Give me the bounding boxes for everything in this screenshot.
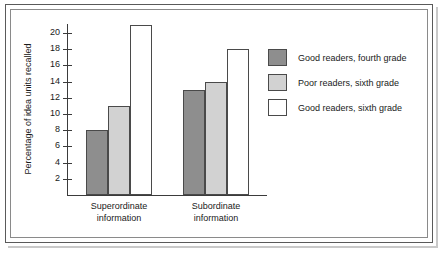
y-axis-tick (63, 179, 72, 180)
legend-swatch (268, 49, 287, 66)
x-axis-category-label-line: information (156, 212, 276, 224)
legend-label: Good readers, fourth grade (298, 53, 407, 63)
bar-chart-plot: Percentage of idea units recalled 246810… (0, 0, 444, 255)
bar (130, 25, 152, 195)
y-axis-tick (63, 65, 72, 66)
bar (86, 130, 108, 195)
bar (183, 90, 205, 195)
y-axis-tick (63, 82, 72, 83)
y-axis-tick-label: 8 (40, 125, 60, 134)
figure-container: Percentage of idea units recalled 246810… (0, 0, 444, 255)
y-axis-tick (63, 98, 72, 99)
y-axis-tick-label: 2 (40, 174, 60, 183)
bar (227, 49, 249, 195)
legend-swatch (268, 99, 287, 116)
legend-item: Good readers, sixth grade (268, 95, 407, 120)
y-axis-tick-label: 16 (40, 60, 60, 69)
bar (205, 82, 227, 195)
legend-swatch (268, 74, 287, 91)
x-axis-line (67, 195, 267, 196)
legend-item: Poor readers, sixth grade (268, 70, 407, 95)
legend-label: Good readers, sixth grade (298, 103, 402, 113)
bar (108, 106, 130, 195)
y-axis-tick (63, 114, 72, 115)
x-axis-category-label: Subordinateinformation (156, 200, 276, 224)
y-axis-tick-label: 4 (40, 158, 60, 167)
y-axis-tick-label: 20 (40, 28, 60, 37)
chart-legend: Good readers, fourth gradePoor readers, … (268, 45, 407, 120)
y-axis-tick-label: 14 (40, 77, 60, 86)
y-axis-tick (63, 49, 72, 50)
y-axis-tick-label: 12 (40, 93, 60, 102)
y-axis-tick-label: 18 (40, 44, 60, 53)
y-axis-tick (63, 33, 72, 34)
y-axis-tick (63, 163, 72, 164)
legend-label: Poor readers, sixth grade (298, 78, 399, 88)
y-axis-tick (63, 130, 72, 131)
y-axis-tick (63, 146, 72, 147)
y-axis-tick-label: 6 (40, 141, 60, 150)
legend-item: Good readers, fourth grade (268, 45, 407, 70)
x-axis-category-label-line: Subordinate (156, 200, 276, 212)
y-axis-tick-label: 10 (40, 109, 60, 118)
y-axis-title: Percentage of idea units recalled (23, 19, 33, 199)
